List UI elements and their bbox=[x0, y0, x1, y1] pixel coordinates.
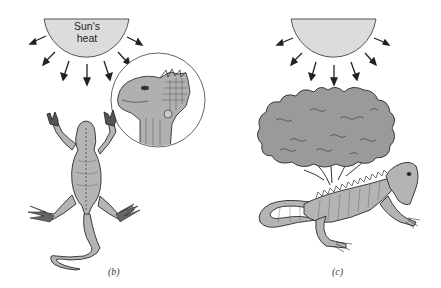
sun-label-line1: Sun's bbox=[57, 20, 117, 32]
sun-heat-label: Sun's heat bbox=[57, 20, 117, 44]
panel-c-illustration bbox=[220, 0, 441, 288]
panel-c-label: (c) bbox=[332, 266, 343, 277]
panel-c: (c) bbox=[220, 0, 441, 288]
magnified-head-inset bbox=[111, 53, 205, 150]
sun-label-line2: heat bbox=[57, 32, 117, 44]
panel-b-label: (b) bbox=[108, 266, 120, 277]
tree-shade bbox=[257, 87, 394, 185]
lizard-dorsal-view bbox=[28, 110, 140, 270]
sun-icon bbox=[291, 19, 376, 57]
panel-b: Sun's heat (b) bbox=[0, 0, 220, 288]
